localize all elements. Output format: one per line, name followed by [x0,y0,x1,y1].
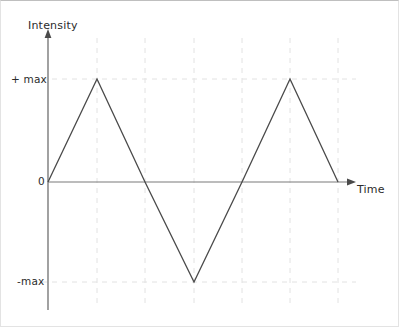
chart-figure: Intensity Time + max 0 -max [0,0,399,327]
y-tick-label-zero: 0 [38,175,45,187]
x-axis [48,179,356,186]
y-axis [45,29,52,310]
y-axis-title: Intensity [28,19,78,32]
x-axis-arrow-icon [347,179,356,186]
waveform-trace [48,79,338,282]
x-axis-title: Time [357,183,385,196]
y-tick-label-pos-max: + max [11,73,47,85]
y-tick-label-neg-max: -max [17,275,44,287]
horizontal-gridlines [42,79,356,282]
triangle-wave-plot [0,0,399,327]
